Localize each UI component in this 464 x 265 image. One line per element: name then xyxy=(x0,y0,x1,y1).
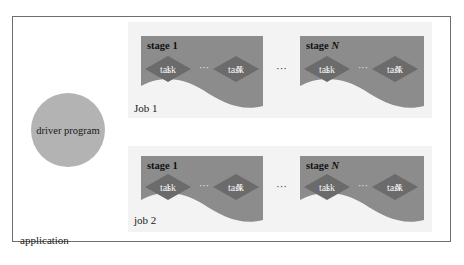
task-node: task N xyxy=(372,174,418,200)
job-2-stage-n: stage N task 1 ··· task N xyxy=(300,156,424,222)
stage-label: stage N xyxy=(306,160,339,171)
task-node: task N xyxy=(213,174,259,200)
job-1-stage-1: stage 1 task 1 ··· task N xyxy=(141,36,263,108)
application-label: application xyxy=(20,234,69,246)
job-1-stage-n: stage N task 1 ··· task N xyxy=(300,36,424,108)
job-2-panel: stage 1 task 1 ··· task N ··· stage N ta… xyxy=(128,146,432,232)
job-2-label: job 2 xyxy=(134,214,156,226)
task-ellipsis: ··· xyxy=(358,62,368,73)
task-node: task N xyxy=(372,56,418,82)
stage-label: stage 1 xyxy=(147,160,178,171)
job-1-panel: stage 1 task 1 ··· task N ··· stage N ta… xyxy=(128,22,432,118)
driver-program-label: driver program xyxy=(36,125,99,136)
task-node: task 1 xyxy=(145,174,191,200)
stage-ellipsis: ··· xyxy=(276,62,287,74)
stage-label: stage N xyxy=(306,40,339,51)
job-1-label: Job 1 xyxy=(134,102,158,114)
driver-program-node: driver program xyxy=(31,93,105,167)
task-ellipsis: ··· xyxy=(199,180,209,191)
job-2-stage-1: stage 1 task 1 ··· task N xyxy=(141,156,263,222)
task-ellipsis: ··· xyxy=(358,180,368,191)
stage-label: stage 1 xyxy=(147,40,178,51)
task-node: task 1 xyxy=(145,56,191,82)
task-node: task 1 xyxy=(304,174,350,200)
task-node: task 1 xyxy=(304,56,350,82)
task-ellipsis: ··· xyxy=(199,62,209,73)
stage-ellipsis: ··· xyxy=(276,180,287,192)
task-node: task N xyxy=(213,56,259,82)
